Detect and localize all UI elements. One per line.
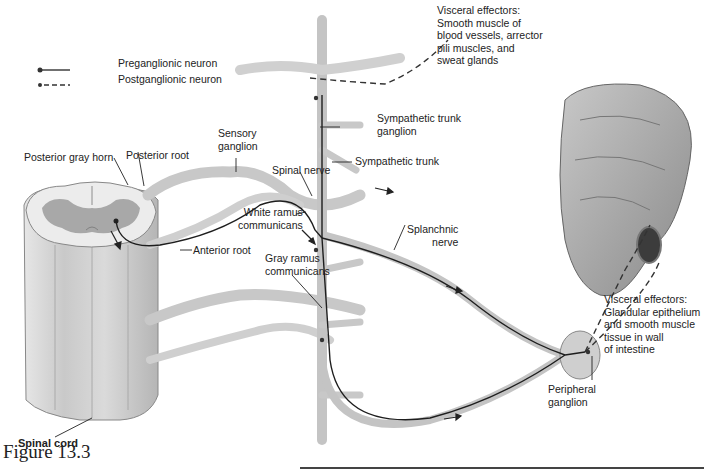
label-spinal-nerve: Spinal nerve <box>272 164 330 177</box>
label-splanchnic-nerve: Splanchnic nerve <box>407 223 458 248</box>
label-sympathetic-trunk-ganglion: Sympathetic trunk ganglion <box>377 112 461 137</box>
legend-label: Postganglionic neuron <box>118 73 222 85</box>
spinal-cord-illustration <box>24 182 158 420</box>
label-visceral-effectors-bottom: Visceral effectors: Glandular epithelium… <box>604 293 700 356</box>
label-peripheral-ganglion: Peripheral ganglion <box>548 383 596 408</box>
intestine-illustration <box>560 84 691 296</box>
diagram-canvas <box>0 0 704 473</box>
figure-caption: Figure 13.3 <box>3 441 91 463</box>
label-posterior-root: Posterior root <box>126 149 189 162</box>
legend-markers <box>38 68 71 88</box>
label-gray-ramus-communicans: Gray ramus communicans <box>265 252 330 277</box>
legend-label: Preganglionic neuron <box>118 57 217 69</box>
bottom-rule <box>300 467 704 469</box>
label-sensory-ganglion: Sensory ganglion <box>218 127 258 152</box>
label-sympathetic-trunk: Sympathetic trunk <box>355 155 439 168</box>
label-posterior-gray-horn: Posterior gray horn <box>24 151 113 164</box>
label-white-ramus-communicans: White ramus communicans <box>238 206 303 231</box>
label-anterior-root: Anterior root <box>193 244 251 257</box>
label-visceral-effectors-top: Visceral effectors: Smooth muscle of blo… <box>437 4 543 67</box>
preganglionic-paths <box>116 95 585 420</box>
